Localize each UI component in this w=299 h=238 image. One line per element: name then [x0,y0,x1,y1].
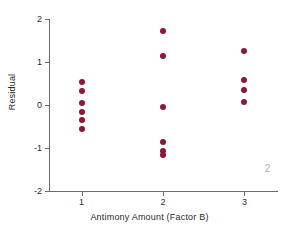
plot-area: 210-1-2 123 2 [49,19,277,191]
x-tick-mark [82,191,83,196]
data-point [79,88,85,94]
y-tick-mark [45,148,49,149]
y-tick-mark [45,19,49,20]
x-tick-label: 1 [79,197,84,207]
data-point [160,139,166,145]
data-point [79,117,85,123]
data-point [241,77,247,83]
data-point [79,126,85,132]
data-point [160,53,166,59]
data-point [79,109,85,115]
residual-scatter-chart: Residual Antimony Amount (Factor B) 210-… [0,0,299,238]
y-tick-mark [45,105,49,106]
data-point [160,152,166,158]
y-tick-label: -1 [34,143,42,153]
y-tick-label: 0 [37,100,42,110]
x-tick-mark [244,191,245,196]
y-tick-label: 1 [37,57,42,67]
chart-annotation: 2 [265,163,271,174]
y-axis-title: Residual [7,62,17,122]
data-point [241,87,247,93]
y-tick-label: -2 [34,186,42,196]
y-tick-label: 2 [37,14,42,24]
data-point [241,48,247,54]
x-tick-label: 2 [160,197,165,207]
data-point [241,99,247,105]
x-tick-mark [163,191,164,196]
data-point [79,100,85,106]
data-point [160,28,166,34]
data-point [79,79,85,85]
data-point [160,104,166,110]
y-axis-line [49,19,50,192]
y-tick-mark [45,191,49,192]
x-axis-title: Antimony Amount (Factor B) [0,212,299,222]
y-tick-mark [45,62,49,63]
x-tick-label: 3 [242,197,247,207]
